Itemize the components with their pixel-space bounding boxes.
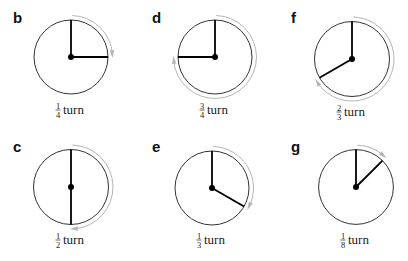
panel-letter: f [291, 9, 297, 26]
turn-word: turn [63, 102, 84, 117]
pivot-dot [68, 184, 74, 190]
turn-label: 13turn [197, 231, 226, 250]
panel-letter: c [13, 138, 21, 155]
arrowhead-icon [172, 56, 176, 64]
turn-panel-c: c12turn [13, 138, 113, 250]
fraction-denominator: 2 [56, 240, 60, 250]
turn-panel-d: d34turn [152, 9, 257, 120]
fraction-denominator: 3 [337, 112, 341, 122]
turn-word: turn [63, 232, 84, 247]
pivot-dot [209, 185, 215, 191]
turn-word: turn [348, 232, 369, 247]
arrowhead-icon [247, 202, 252, 210]
fraction-denominator: 8 [341, 240, 345, 250]
turn-label: 34turn [200, 101, 229, 120]
turn-panel-e: e13turn [152, 138, 253, 250]
pivot-dot [212, 54, 218, 60]
turn-label: 12turn [56, 231, 85, 250]
rotation-arrow-arc [72, 16, 112, 54]
end-hand [320, 59, 352, 78]
turn-panels: b14turnd34turnf23turnc12turne13turng18tu… [13, 9, 394, 250]
fraction-denominator: 4 [56, 110, 61, 120]
turn-panel-b: b14turn [13, 9, 114, 120]
rotation-arrow-arc [72, 145, 113, 229]
end-hand [356, 161, 382, 187]
arrowhead-icon [315, 79, 321, 87]
turn-panel-f: f23turn [291, 9, 394, 122]
arrowhead-icon [110, 50, 114, 58]
arrowhead-icon [70, 226, 78, 230]
turn-panel-g: g18turn [291, 138, 393, 250]
turn-label: 18turn [341, 231, 370, 250]
panel-letter: d [152, 9, 161, 26]
turn-label: 14turn [56, 101, 85, 120]
turn-word: turn [344, 104, 365, 119]
end-hand [212, 188, 244, 206]
turn-word: turn [204, 232, 225, 247]
panel-letter: g [291, 138, 300, 155]
panel-letter: b [13, 9, 22, 26]
turn-word: turn [207, 102, 228, 117]
fraction-denominator: 4 [200, 110, 205, 120]
turn-diagram-figure: b14turnd34turnf23turnc12turne13turng18tu… [0, 0, 408, 261]
pivot-dot [349, 56, 355, 62]
pivot-dot [353, 184, 359, 190]
pivot-dot [68, 54, 74, 60]
fraction-denominator: 3 [197, 240, 201, 250]
turn-label: 23turn [337, 103, 366, 122]
panel-letter: e [152, 138, 160, 155]
